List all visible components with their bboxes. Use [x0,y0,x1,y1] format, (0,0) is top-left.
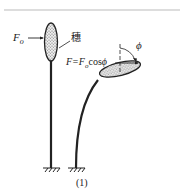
right-ground-hatch [68,168,85,172]
left-ear [45,23,58,61]
left-ground-hatch [43,168,60,172]
ear-label: 穗 [71,33,81,43]
right-stem [76,80,98,168]
angle-label: ϕ [136,40,142,51]
diagram-canvas [0,0,182,191]
figure-caption: (1) [76,178,88,188]
angle-arc [120,48,135,60]
left-force-label: Fo [13,32,24,46]
ear-leader [59,41,70,48]
right-force-formula: F=Focosϕ [66,57,107,70]
